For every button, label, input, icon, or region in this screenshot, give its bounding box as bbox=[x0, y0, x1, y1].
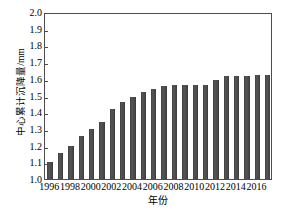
y-tick-mark bbox=[45, 47, 48, 48]
y-tick-mark bbox=[45, 98, 48, 99]
y-tick-mark bbox=[45, 31, 48, 32]
settlement-bar-chart: 中心累计沉降量/mm 1.01.11.21.31.41.51.61.71.81.… bbox=[0, 0, 289, 220]
bar bbox=[224, 76, 229, 179]
x-axis-title: 年份 bbox=[44, 195, 272, 207]
y-tick-mark bbox=[45, 81, 48, 82]
y-axis-tick-labels: 1.01.11.21.31.41.51.61.71.81.92.0 bbox=[0, 0, 44, 220]
y-tick-label: 1.9 bbox=[2, 25, 44, 35]
y-tick-label: 1.5 bbox=[2, 92, 44, 102]
x-tick-label: 2014 bbox=[226, 181, 246, 193]
bar bbox=[99, 122, 104, 179]
y-tick-label: 1.1 bbox=[2, 158, 44, 168]
y-tick-label: 1.2 bbox=[2, 142, 44, 152]
y-tick-label: 1.8 bbox=[2, 41, 44, 51]
x-tick-mark bbox=[206, 176, 207, 179]
x-tick-mark bbox=[195, 176, 196, 179]
y-tick-mark bbox=[45, 64, 48, 65]
y-tick-label: 1.0 bbox=[2, 175, 44, 185]
x-tick-mark bbox=[81, 176, 82, 179]
x-tick-mark bbox=[102, 176, 103, 179]
bar bbox=[255, 75, 260, 179]
bar bbox=[265, 75, 270, 179]
x-tick-label: 2006 bbox=[143, 181, 163, 193]
x-tick-mark bbox=[216, 176, 217, 179]
bar bbox=[244, 76, 249, 179]
x-tick-mark bbox=[175, 176, 176, 179]
x-tick-label: 1998 bbox=[60, 181, 80, 193]
bar bbox=[161, 86, 166, 179]
x-tick-label: 2010 bbox=[184, 181, 204, 193]
bar bbox=[213, 80, 218, 179]
x-tick-mark bbox=[268, 176, 269, 179]
y-tick-mark bbox=[45, 148, 48, 149]
bar bbox=[203, 85, 208, 179]
bar bbox=[79, 136, 84, 179]
x-tick-mark bbox=[50, 176, 51, 179]
x-tick-label: 2016 bbox=[246, 181, 266, 193]
y-tick-mark bbox=[45, 114, 48, 115]
x-tick-label: 2004 bbox=[122, 181, 142, 193]
y-tick-label: 1.6 bbox=[2, 75, 44, 85]
y-tick-label: 1.4 bbox=[2, 108, 44, 118]
bar bbox=[234, 76, 239, 179]
plot-area bbox=[44, 13, 272, 180]
y-tick-mark bbox=[45, 164, 48, 165]
bar bbox=[130, 97, 135, 179]
x-tick-label: 2008 bbox=[164, 181, 184, 193]
x-tick-mark bbox=[71, 176, 72, 179]
x-tick-label: 2002 bbox=[101, 181, 121, 193]
bar bbox=[110, 109, 115, 179]
x-tick-mark bbox=[61, 176, 62, 179]
y-tick-mark bbox=[45, 131, 48, 132]
x-tick-label: 2012 bbox=[205, 181, 225, 193]
x-tick-mark bbox=[226, 176, 227, 179]
bar bbox=[151, 89, 156, 179]
x-tick-mark bbox=[112, 176, 113, 179]
x-tick-label: 1996 bbox=[39, 181, 59, 193]
x-tick-mark bbox=[154, 176, 155, 179]
x-tick-mark bbox=[143, 176, 144, 179]
bar bbox=[120, 102, 125, 179]
x-tick-mark bbox=[92, 176, 93, 179]
bar bbox=[68, 146, 73, 179]
x-tick-label: 2000 bbox=[81, 181, 101, 193]
x-tick-mark bbox=[257, 176, 258, 179]
x-tick-mark bbox=[185, 176, 186, 179]
bar bbox=[182, 85, 187, 179]
y-tick-label: 2.0 bbox=[2, 8, 44, 18]
x-tick-mark bbox=[133, 176, 134, 179]
x-tick-mark bbox=[123, 176, 124, 179]
bar bbox=[89, 129, 94, 179]
bar bbox=[141, 92, 146, 179]
x-tick-mark bbox=[237, 176, 238, 179]
bar bbox=[172, 85, 177, 179]
y-tick-label: 1.7 bbox=[2, 58, 44, 68]
y-tick-label: 1.3 bbox=[2, 125, 44, 135]
bar-series bbox=[45, 14, 271, 179]
bar bbox=[193, 85, 198, 179]
x-tick-mark bbox=[247, 176, 248, 179]
x-tick-mark bbox=[164, 176, 165, 179]
